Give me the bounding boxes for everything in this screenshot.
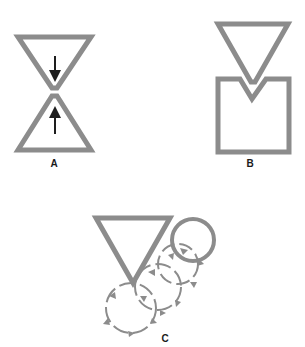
arrow-icon <box>175 300 181 307</box>
arrow-icon <box>190 282 197 288</box>
indented-square <box>218 79 289 152</box>
panel-label-c: C <box>161 333 168 344</box>
arrow-icon <box>160 310 166 316</box>
diagram-canvas <box>0 0 305 347</box>
rolling-circle-2 <box>135 264 181 310</box>
panel-label-a: A <box>50 158 57 169</box>
arrow-icon <box>168 253 174 260</box>
rolling-triangle <box>96 218 170 283</box>
panel-b <box>218 24 289 152</box>
indenter-triangle <box>218 24 288 82</box>
panel-c <box>96 218 214 337</box>
panel-label-b: B <box>246 158 253 169</box>
arrow-icon <box>148 269 155 276</box>
solid-circle <box>172 219 214 261</box>
panel-a <box>18 37 91 150</box>
arrow-icon <box>180 248 188 255</box>
